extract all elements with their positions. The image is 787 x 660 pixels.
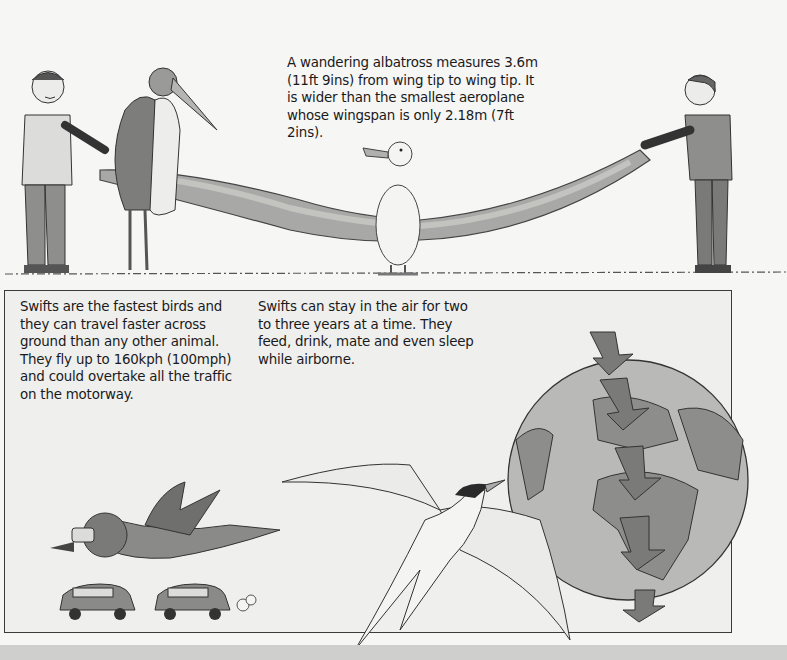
boy-left-illustration [10, 65, 110, 275]
cars-illustration [55, 580, 275, 625]
book-page: A wandering albatross measures 3.6m (11f… [0, 0, 787, 660]
swift-speed-caption: Swifts are the fastest birds and they ca… [20, 298, 240, 403]
marabou-stork-illustration [95, 60, 225, 275]
albatross-caption: A wandering albatross measures 3.6m (11f… [287, 54, 542, 142]
albatross-panel: A wandering albatross measures 3.6m (11f… [0, 0, 787, 285]
exhaust-puff [237, 595, 256, 611]
car-2 [155, 584, 230, 620]
albatross-illustration [358, 140, 448, 280]
boy-right-illustration [640, 70, 750, 280]
migration-arrows-icon [575, 330, 695, 650]
car-1 [60, 584, 135, 620]
next-section-strip [0, 645, 787, 660]
tern-illustration [280, 440, 580, 650]
swift-with-helmet-illustration [50, 480, 280, 580]
swift-airborne-caption: Swifts can stay in the air for two to th… [258, 298, 483, 368]
